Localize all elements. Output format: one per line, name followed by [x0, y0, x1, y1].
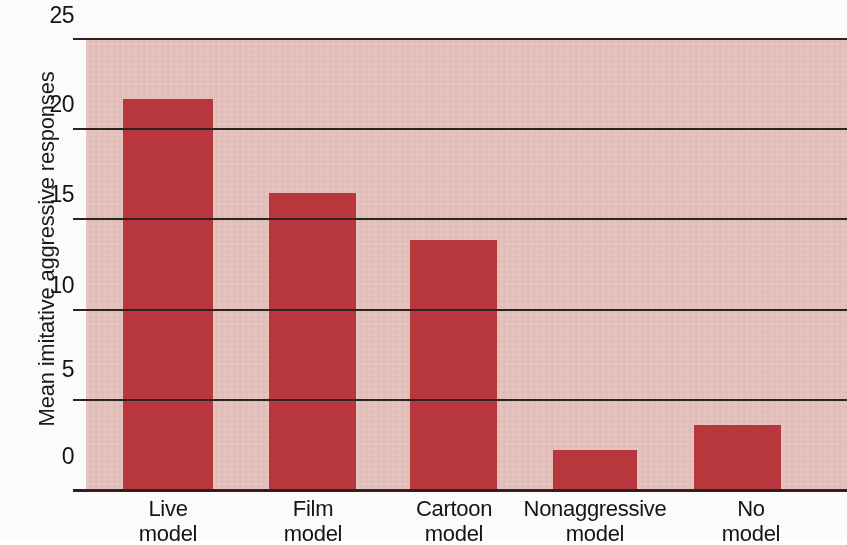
bar-cartoon-model [410, 240, 497, 490]
x-tick-label-no-model: No model [681, 496, 821, 545]
x-tick-label-cartoon-model: Cartoon model [384, 496, 524, 545]
x-tick-label-film-model-line1: Film [293, 496, 333, 521]
bar-film-model [269, 193, 356, 490]
x-tick-label-nonaggressive-model: Nonaggressive model [509, 496, 681, 545]
gridline-5 [73, 399, 847, 401]
x-tick-label-live-model-line1: Live [148, 496, 187, 521]
x-tick-label-no-model-line1: No [737, 496, 765, 521]
x-tick-label-cartoon-model-line2: model [384, 521, 524, 545]
y-tick-label-20: 20 [22, 91, 74, 118]
y-tick-label-10: 10 [22, 272, 74, 299]
x-axis-baseline [73, 489, 847, 492]
y-axis-title: Mean imitative aggressive responses [34, 14, 60, 484]
y-tick-label-0: 0 [22, 443, 74, 470]
plot-area [86, 38, 847, 490]
bar-live-model [123, 99, 213, 490]
x-tick-label-nonaggressive-model-line1: Nonaggressive [524, 496, 667, 521]
gridline-25 [73, 38, 847, 40]
y-tick-label-15: 15 [22, 181, 74, 208]
x-tick-label-film-model: Film model [243, 496, 383, 545]
y-tick-label-25: 25 [22, 2, 74, 29]
y-tick-label-5: 5 [22, 356, 74, 383]
gridline-10 [73, 309, 847, 311]
x-tick-label-no-model-line2: model [681, 521, 821, 545]
x-tick-label-nonaggressive-model-line2: model [509, 521, 681, 545]
bar-nonaggressive-model [553, 450, 637, 490]
x-tick-label-cartoon-model-line1: Cartoon [416, 496, 492, 521]
x-tick-label-film-model-line2: model [243, 521, 383, 545]
x-tick-label-live-model: Live model [98, 496, 238, 545]
bar-no-model [694, 425, 781, 490]
gridline-20 [73, 128, 847, 130]
x-tick-label-live-model-line2: model [98, 521, 238, 545]
gridline-15 [73, 218, 847, 220]
